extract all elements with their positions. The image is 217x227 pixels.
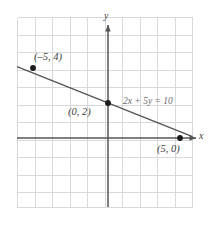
point-0-2 [105, 100, 111, 106]
point-label-5-0: (5, 0) [157, 144, 180, 155]
y-axis-label: y [104, 11, 108, 21]
point-5-0 [177, 135, 183, 141]
graph-canvas [0, 0, 217, 227]
point-neg5-4 [30, 65, 36, 71]
point-label-0-2: (0, 2) [68, 107, 91, 118]
grid-lines [18, 18, 193, 208]
x-axis-label: x [199, 131, 203, 141]
point-label-neg5-4: (–5, 4) [34, 52, 62, 63]
coordinate-plane-figure: (–5, 4) (0, 2) (5, 0) 2x + 5y = 10 x y [0, 0, 217, 227]
equation-label: 2x + 5y = 10 [123, 97, 173, 107]
